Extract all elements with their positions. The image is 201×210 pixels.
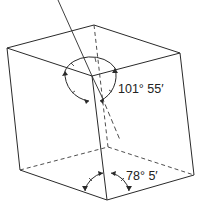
hidden-edges — [20, 25, 194, 175]
acute-angle-label: 78° 5′ — [126, 169, 158, 183]
obtuse-angle-marker — [62, 57, 118, 104]
arrowhead-icon — [98, 171, 103, 176]
optic-axis — [58, 0, 120, 140]
obtuse-angle-label: 101° 55′ — [118, 82, 164, 96]
arrowhead-icon — [126, 186, 132, 191]
arrowhead-icon — [62, 71, 68, 76]
arrowhead-icon — [82, 186, 88, 191]
arrowhead-icon — [111, 171, 116, 176]
acute-angle-marker — [82, 171, 132, 191]
arrowhead-icon — [84, 99, 89, 104]
crystal-diagram: 101° 55′ 78° 5′ — [0, 0, 201, 210]
